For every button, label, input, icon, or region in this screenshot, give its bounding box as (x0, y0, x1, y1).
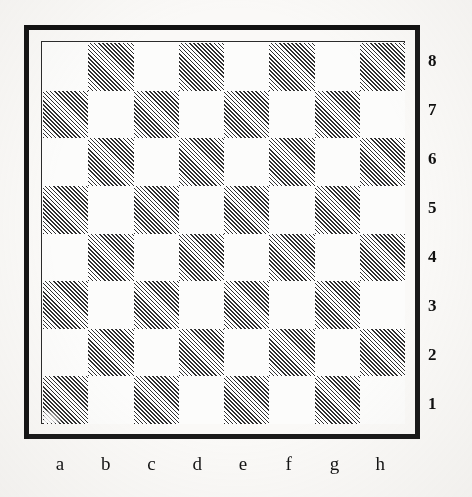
square-h7[interactable] (360, 91, 405, 139)
square-e5[interactable] (224, 186, 269, 234)
square-g6[interactable] (315, 138, 360, 186)
square-b8[interactable] (88, 43, 133, 91)
square-c4[interactable] (134, 234, 179, 282)
square-a4[interactable] (43, 234, 88, 282)
square-e3[interactable] (224, 281, 269, 329)
square-a6[interactable] (43, 138, 88, 186)
square-h8[interactable] (360, 43, 405, 91)
file-label-d: d (174, 448, 220, 478)
square-h3[interactable] (360, 281, 405, 329)
square-g8[interactable] (315, 43, 360, 91)
file-label-f: f (266, 448, 312, 478)
square-g4[interactable] (315, 234, 360, 282)
square-a2[interactable] (43, 329, 88, 377)
square-f7[interactable] (269, 91, 314, 139)
square-g1[interactable] (315, 376, 360, 424)
square-f1[interactable] (269, 376, 314, 424)
square-d2[interactable] (179, 329, 224, 377)
square-b6[interactable] (88, 138, 133, 186)
chessboard-grid[interactable] (43, 43, 405, 424)
square-d1[interactable] (179, 376, 224, 424)
square-c7[interactable] (134, 91, 179, 139)
square-d5[interactable] (179, 186, 224, 234)
rank-label-2: 2 (428, 330, 456, 379)
square-g7[interactable] (315, 91, 360, 139)
square-e1[interactable] (224, 376, 269, 424)
square-a1[interactable] (43, 376, 88, 424)
rank-label-1: 1 (428, 379, 456, 428)
rank-label-5: 5 (428, 183, 456, 232)
rank-label-7: 7 (428, 85, 456, 134)
square-d3[interactable] (179, 281, 224, 329)
square-e8[interactable] (224, 43, 269, 91)
square-d8[interactable] (179, 43, 224, 91)
board-outer-frame (24, 25, 420, 439)
file-label-a: a (37, 448, 83, 478)
square-c2[interactable] (134, 329, 179, 377)
square-b1[interactable] (88, 376, 133, 424)
square-f8[interactable] (269, 43, 314, 91)
square-e4[interactable] (224, 234, 269, 282)
square-c6[interactable] (134, 138, 179, 186)
square-a5[interactable] (43, 186, 88, 234)
board-inner-rule (41, 41, 405, 424)
rank-label-column: 87654321 (428, 36, 456, 428)
square-f4[interactable] (269, 234, 314, 282)
file-label-b: b (83, 448, 129, 478)
square-a7[interactable] (43, 91, 88, 139)
square-g3[interactable] (315, 281, 360, 329)
rank-label-4: 4 (428, 232, 456, 281)
square-h2[interactable] (360, 329, 405, 377)
square-a8[interactable] (43, 43, 88, 91)
square-g5[interactable] (315, 186, 360, 234)
square-g2[interactable] (315, 329, 360, 377)
rank-label-3: 3 (428, 281, 456, 330)
square-b3[interactable] (88, 281, 133, 329)
square-c8[interactable] (134, 43, 179, 91)
square-a3[interactable] (43, 281, 88, 329)
square-e2[interactable] (224, 329, 269, 377)
square-f6[interactable] (269, 138, 314, 186)
square-e7[interactable] (224, 91, 269, 139)
file-label-row: abcdefgh (37, 448, 403, 478)
square-f2[interactable] (269, 329, 314, 377)
file-label-g: g (312, 448, 358, 478)
square-d4[interactable] (179, 234, 224, 282)
square-e6[interactable] (224, 138, 269, 186)
file-label-h: h (357, 448, 403, 478)
print-scuff-artifact (44, 410, 61, 423)
square-c1[interactable] (134, 376, 179, 424)
square-h1[interactable] (360, 376, 405, 424)
rank-label-8: 8 (428, 36, 456, 85)
square-d6[interactable] (179, 138, 224, 186)
square-b4[interactable] (88, 234, 133, 282)
square-b7[interactable] (88, 91, 133, 139)
file-label-e: e (220, 448, 266, 478)
square-b2[interactable] (88, 329, 133, 377)
file-label-c: c (129, 448, 175, 478)
square-h4[interactable] (360, 234, 405, 282)
square-h6[interactable] (360, 138, 405, 186)
square-h5[interactable] (360, 186, 405, 234)
square-f3[interactable] (269, 281, 314, 329)
square-f5[interactable] (269, 186, 314, 234)
square-c3[interactable] (134, 281, 179, 329)
page-canvas: 87654321 abcdefgh (0, 0, 472, 497)
square-c5[interactable] (134, 186, 179, 234)
square-b5[interactable] (88, 186, 133, 234)
rank-label-6: 6 (428, 134, 456, 183)
square-d7[interactable] (179, 91, 224, 139)
